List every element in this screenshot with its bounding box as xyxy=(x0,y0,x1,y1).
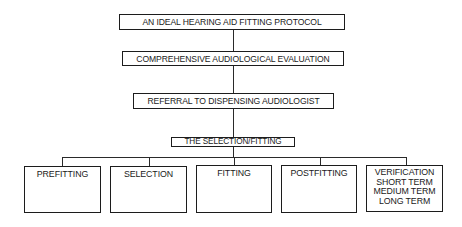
fitting-box: FITTING xyxy=(196,165,272,213)
prefitting-box: PREFITTING xyxy=(24,166,101,213)
selection-label: SELECTION xyxy=(111,170,186,180)
referral-box: REFERRAL TO DISPENSING AUDIOLOGIST xyxy=(133,93,334,109)
fitting-label: FITTING xyxy=(197,169,271,179)
connector-evaluation-referral xyxy=(233,65,234,93)
connector-prefitting xyxy=(62,157,63,166)
long-term-label: LONG TERM xyxy=(367,197,442,207)
hearing-aid-protocol-diagram: AN IDEAL HEARING AID FITTING PROTOCOL CO… xyxy=(0,0,462,227)
title-box: AN IDEAL HEARING AID FITTING PROTOCOL xyxy=(119,14,345,30)
postfitting-box: POSTFITTING xyxy=(281,165,357,213)
prefitting-label: PREFITTING xyxy=(25,170,100,180)
connector-selection xyxy=(149,157,150,166)
connector-selection-branch xyxy=(233,146,234,157)
postfitting-label: POSTFITTING xyxy=(282,169,356,179)
evaluation-box: COMPREHENSIVE AUDIOLOGICAL EVALUATION xyxy=(122,51,344,66)
referral-label: REFERRAL TO DISPENSING AUDIOLOGIST xyxy=(147,96,319,106)
selection-fitting-box: THE SELECTION/FITTING xyxy=(171,137,295,147)
connector-title-evaluation xyxy=(233,29,234,52)
selection-box: SELECTION xyxy=(110,166,187,213)
title-label: AN IDEAL HEARING AID FITTING PROTOCOL xyxy=(142,17,321,27)
connector-referral-selection xyxy=(233,109,234,137)
evaluation-label: COMPREHENSIVE AUDIOLOGICAL EVALUATION xyxy=(136,54,329,64)
selection-fitting-label: THE SELECTION/FITTING xyxy=(184,137,281,147)
verification-box: VERIFICATION SHORT TERM MEDIUM TERM LONG… xyxy=(366,165,443,212)
